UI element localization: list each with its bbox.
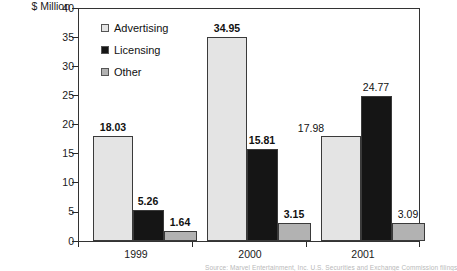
y-tick-10: 10 <box>40 177 74 187</box>
x-tickmark-left <box>78 242 79 247</box>
legend: Advertising Licensing Other <box>101 17 168 83</box>
y-tick-35: 35 <box>40 32 74 42</box>
y-tick-25: 25 <box>40 90 74 100</box>
bar-label-2001-other: 3.09 <box>384 208 432 220</box>
bar-label-2000-other: 3.15 <box>270 208 318 220</box>
y-tick-0: 0 <box>40 236 74 246</box>
bar-label-1999-other: 1.64 <box>156 216 204 228</box>
bar-label-1999-advertising: 18.03 <box>89 121 137 133</box>
y-tick-5: 5 <box>40 206 74 216</box>
bar-1999-other <box>164 231 197 241</box>
bar-2001-other <box>392 223 425 241</box>
x-label-2000: 2000 <box>193 248 307 260</box>
bar-label-2000-advertising: 34.95 <box>203 22 251 34</box>
legend-item-other: Other <box>101 61 168 83</box>
bar-1999-advertising <box>93 136 133 241</box>
plot-area: Advertising Licensing Other 18.03 5.26 1… <box>78 8 420 242</box>
legend-swatch-advertising-icon <box>101 24 109 32</box>
x-tickmark-1 <box>192 242 193 247</box>
y-tick-20: 20 <box>40 119 74 129</box>
y-tick-15: 15 <box>40 148 74 158</box>
x-label-1999: 1999 <box>79 248 193 260</box>
x-label-2001: 2001 <box>306 248 420 260</box>
x-tickmark-right <box>419 242 420 247</box>
bar-label-1999-licensing: 5.26 <box>124 195 172 207</box>
legend-item-licensing: Licensing <box>101 39 168 61</box>
bar-2001-advertising <box>321 136 361 241</box>
legend-swatch-other-icon <box>101 68 109 76</box>
legend-label-licensing: Licensing <box>114 44 160 56</box>
bar-label-2001-advertising: 17.98 <box>287 122 335 134</box>
source-caption: Source: Marvel Entertainment, Inc. U.S. … <box>205 264 457 271</box>
legend-item-advertising: Advertising <box>101 17 168 39</box>
bar-label-2000-licensing: 15.81 <box>238 134 286 146</box>
legend-swatch-licensing-icon <box>101 46 109 54</box>
bar-2000-licensing <box>247 149 278 241</box>
x-tickmark-2 <box>306 242 307 247</box>
y-axis-tick-labels: 40 35 30 25 20 15 10 5 0 <box>40 0 74 270</box>
legend-label-advertising: Advertising <box>114 22 168 34</box>
legend-label-other: Other <box>114 66 142 78</box>
bar-2000-other <box>278 223 311 241</box>
y-tick-30: 30 <box>40 61 74 71</box>
bar-label-2001-licensing: 24.77 <box>352 81 400 93</box>
y-tick-40: 40 <box>40 3 74 13</box>
